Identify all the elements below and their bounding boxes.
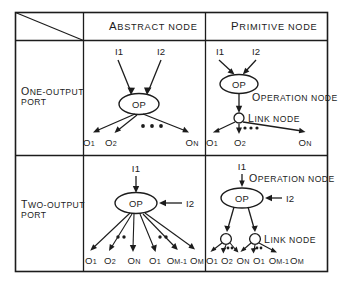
output-label-on: ON	[185, 137, 198, 148]
output-label-o2: O2	[105, 137, 117, 148]
output-label-o1-a: O1	[206, 255, 218, 266]
row-header-one-output-line2: PORT	[21, 97, 47, 107]
operation-node-label: OP	[129, 198, 143, 209]
input-label-i2: I2	[186, 198, 194, 209]
annotation-link-node: LINK NODE	[248, 112, 300, 124]
output-label-o2: O2	[221, 255, 233, 266]
diagram-canvas: ABSTRACT NODE PRIMITIVE NODE ONE-OUTPUT …	[0, 0, 341, 285]
output-label-o1: O1	[83, 137, 95, 148]
input-label-i2: I2	[252, 46, 260, 57]
operation-node-label: OP	[235, 193, 249, 204]
column-header-primitive: PRIMITIVE NODE	[231, 20, 317, 32]
input-label-i1: I1	[132, 163, 140, 174]
input-label-i2: I2	[157, 46, 165, 57]
link-node-left	[221, 234, 232, 245]
output-label-on: ON	[236, 255, 249, 266]
output-label-o1: O1	[206, 137, 218, 148]
input-label-i1: I1	[238, 161, 246, 172]
output-label-o2: O2	[234, 137, 246, 148]
node-representation-figure: ABSTRACT NODE PRIMITIVE NODE ONE-OUTPUT …	[0, 0, 341, 285]
output-label-o1-b: O1	[149, 255, 161, 266]
input-label-i2: I2	[286, 193, 294, 204]
link-node-right	[250, 234, 261, 245]
output-label-om: OM	[290, 255, 304, 266]
input-label-i1: I1	[115, 46, 123, 57]
column-header-abstract: ABSTRACT NODE	[109, 20, 198, 32]
ellipsis-dots	[243, 126, 258, 129]
column-header-abstract-label: ABSTRACT NODE	[109, 20, 198, 32]
operation-node-op: OP	[115, 193, 157, 214]
output-label-om-1: OM-1	[167, 255, 188, 266]
operation-node-label: OP	[232, 79, 246, 90]
row-header-one-output-line1: ONE-OUTPUT	[21, 85, 84, 97]
row-header-two-output-line2: PORT	[21, 210, 47, 220]
annotation-operation-node: OPERATION NODE	[249, 172, 335, 184]
column-header-primitive-label: PRIMITIVE NODE	[231, 20, 317, 32]
operation-node-op: OP	[119, 94, 159, 115]
link-node	[234, 113, 244, 123]
annotation-link-node: LINK NODE	[264, 233, 316, 245]
operation-node-op: OP	[221, 188, 263, 208]
output-label-on: ON	[127, 255, 140, 266]
output-label-o1-b: O1	[253, 255, 265, 266]
input-label-i1: I1	[216, 46, 224, 57]
output-label-o2: O2	[104, 255, 116, 266]
output-label-om-1: OM-1	[269, 255, 290, 266]
operation-node-label: OP	[132, 99, 146, 110]
output-label-om: OM	[190, 255, 204, 266]
output-label-on: ON	[298, 137, 311, 148]
row-header-two-output-line1: TWO-OUTPUT	[21, 198, 85, 210]
annotation-operation-node: OPERATION NODE	[252, 91, 338, 103]
output-label-o1-a: O1	[85, 255, 97, 266]
